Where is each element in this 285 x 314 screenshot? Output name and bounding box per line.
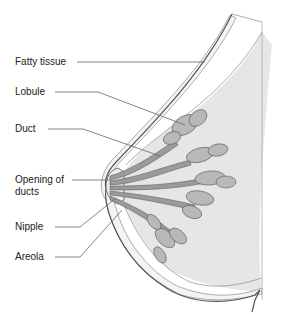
label-areola: Areola xyxy=(15,251,44,263)
label-opening-of-ducts-line2: ducts xyxy=(15,186,64,198)
label-fatty-tissue: Fatty tissue xyxy=(15,56,66,68)
label-duct: Duct xyxy=(15,123,36,135)
top-fat-edge xyxy=(232,14,262,22)
label-opening-of-ducts: Opening of ducts xyxy=(15,174,64,198)
label-lobule: Lobule xyxy=(15,86,45,98)
label-opening-of-ducts-line1: Opening of xyxy=(15,174,64,186)
breast-anatomy-illustration xyxy=(0,0,285,314)
label-nipple: Nipple xyxy=(15,221,43,233)
